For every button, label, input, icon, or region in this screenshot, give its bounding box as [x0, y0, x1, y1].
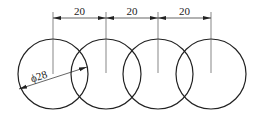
extension-lines [53, 12, 211, 74]
technical-drawing: 20 20 20 ϕ28 [0, 0, 260, 119]
spacing-label-3: 20 [179, 5, 191, 17]
spacing-label-2: 20 [127, 5, 139, 17]
spacing-label-1: 20 [74, 5, 86, 17]
circles-group [18, 39, 246, 109]
diameter-label: ϕ28 [29, 68, 49, 85]
